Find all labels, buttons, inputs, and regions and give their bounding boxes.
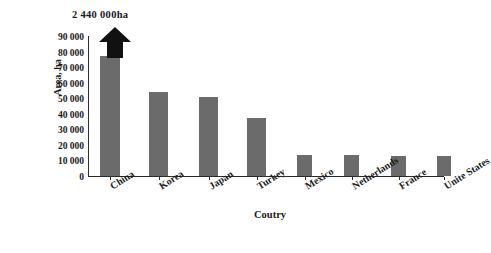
y-axis-tick-label: 10 000 (26, 157, 84, 167)
bar-netherlands (344, 155, 359, 176)
y-axis-tick-label: 40 000 (26, 111, 84, 121)
y-axis-tick-labels: 90 00080 00070 00060 00050 00040 00030 0… (26, 38, 84, 182)
broken-scale-arrow-icon (99, 27, 131, 58)
x-axis-title: Coutry (254, 209, 286, 220)
bar-china (100, 56, 120, 176)
y-axis-tick-label: 90 000 (26, 33, 84, 43)
y-axis-tick-label: 80 000 (26, 49, 84, 59)
y-axis-tick-label: 30 000 (26, 126, 84, 136)
china-value-annotation: 2 440 000ha (72, 9, 172, 20)
y-axis-tick-label: 50 000 (26, 95, 84, 105)
bar-korea (149, 92, 168, 176)
bar-japan (199, 97, 218, 176)
y-axis-tick-label: 20 000 (26, 142, 84, 152)
bar-turkey (247, 118, 266, 176)
y-axis-tick-label: 60 000 (26, 80, 84, 90)
y-axis-tick-label: 70 000 (26, 64, 84, 74)
bar-mexico (297, 155, 312, 176)
bar-unite-states (437, 156, 451, 176)
y-axis-tick-label: 0 (26, 173, 84, 183)
